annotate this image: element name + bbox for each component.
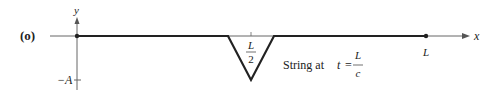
midpoint-label-den: 2 [248,53,254,65]
origin-endpoint [75,34,79,38]
caption-var: t [337,58,341,72]
caption-text: String at [283,58,325,72]
x-axis-arrow-icon [462,33,470,39]
panel-label: (o) [20,28,35,43]
end-label: L [422,46,429,58]
caption-frac-num: L [354,49,361,61]
caption-eq: = [345,58,352,72]
midpoint-label-num: L [247,39,254,51]
y-axis-arrow-icon [75,17,80,24]
string-wave-diagram: (o) x y −A L 2 L String at t = L c [0,0,495,94]
caption-frac-den: c [356,67,361,79]
neg-amplitude-label: −A [57,73,73,87]
end-endpoint [424,34,428,38]
y-axis-label: y [73,4,79,16]
x-axis-label: x [473,29,480,43]
